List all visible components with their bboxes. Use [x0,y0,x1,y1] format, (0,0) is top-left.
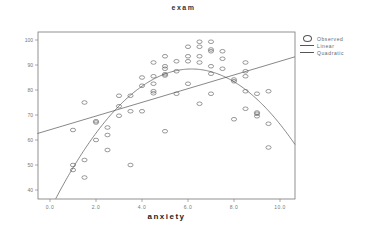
observed-point [128,109,133,113]
x-tick-label: 0.0 [46,204,54,210]
observed-point [105,133,110,137]
line-marker-icon [300,49,314,56]
observed-point [254,114,259,118]
observed-point [254,92,259,96]
y-tick-label: 90 [27,62,33,68]
linear-fit-line [37,57,295,134]
fit-lines [37,57,295,199]
observed-point [139,76,144,80]
observed-point [185,45,190,49]
observed-point [139,84,144,88]
observed-point [82,176,87,180]
observed-point [197,45,202,49]
observed-point [151,82,156,86]
observed-point [162,54,167,58]
plot-axes: 4050607080901000.02.04.06.08.010.0 [25,32,295,210]
legend-item-quadratic: Quadratic [300,49,344,56]
observed-point [220,57,225,61]
legend-item-observed: Observed [300,35,344,42]
observed-point [151,61,156,65]
observed-point [82,158,87,162]
observed-point [243,107,248,111]
observed-point [185,82,190,86]
observed-point [197,102,202,106]
circle-marker-icon [300,35,314,42]
observed-point [266,89,271,93]
observed-point [93,138,98,142]
y-tick-label: 50 [27,162,33,168]
x-tick-label: 10.0 [274,204,286,210]
observed-point [128,163,133,167]
y-tick-label: 80 [27,87,33,93]
observed-point [162,129,167,133]
observed-point [208,64,213,68]
x-tick-label: 6.0 [184,204,192,210]
observed-point [185,54,190,58]
legend-label-observed: Observed [317,36,343,42]
quadratic-fit-curve [56,69,295,199]
x-axis-label: anxiety [38,212,295,221]
observed-point [208,72,213,76]
observed-point [197,40,202,44]
y-tick-label: 60 [27,137,33,143]
observed-point [231,117,236,121]
line-marker-icon [300,42,314,49]
observed-point [139,109,144,113]
observed-point [197,61,202,65]
observed-points [70,40,271,179]
observed-point [197,54,202,58]
observed-point [174,59,179,63]
observed-point [266,146,271,150]
observed-point [243,61,248,65]
y-tick-label: 70 [27,112,33,118]
y-tick-label: 40 [27,187,33,193]
observed-point [243,74,248,78]
legend-label-linear: Linear [317,43,335,49]
observed-point [220,49,225,53]
legend: Observed Linear Quadratic [300,35,344,56]
legend-item-linear: Linear [300,42,344,49]
observed-point [174,92,179,96]
observed-point [185,59,190,63]
observed-point [70,168,75,172]
observed-point [70,128,75,132]
observed-point [116,114,121,118]
observed-point [162,67,167,71]
x-tick-label: 8.0 [230,204,238,210]
observed-point [220,67,225,71]
observed-point [116,94,121,98]
observed-point [266,122,271,126]
observed-point [82,101,87,105]
observed-point [208,92,213,96]
observed-point [105,126,110,130]
observed-point [128,94,133,98]
x-tick-label: 2.0 [92,204,100,210]
legend-label-quadratic: Quadratic [317,50,344,56]
observed-point [208,40,213,44]
observed-point [105,148,110,152]
y-tick-label: 100 [25,37,34,43]
observed-point [151,74,156,78]
x-tick-label: 4.0 [138,204,146,210]
